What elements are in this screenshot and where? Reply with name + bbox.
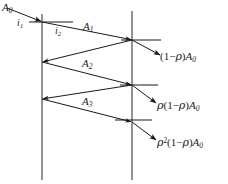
label-internal-ray-1: A1	[83, 21, 93, 32]
label-incident-amplitude: A0	[2, 2, 12, 13]
label-transmitted-amplitude-2: ρ(1−ρ)A0	[157, 100, 199, 111]
label-angle-incidence: i1	[17, 18, 23, 28]
label-transmitted-amplitude-1: (1−ρ)A0	[160, 51, 196, 62]
ray-diagram-figure: A0 i1 i2 A1 A2 A3 (1−ρ)A0 ρ(1−ρ)A0 ρ2(1−…	[0, 0, 228, 184]
transmitted-ray-1	[132, 40, 160, 55]
label-angle-refraction: i2	[55, 26, 61, 36]
label-transmitted-amplitude-3: ρ2(1−ρ)A0	[157, 137, 203, 148]
label-internal-ray-3: A3	[82, 96, 92, 107]
transmitted-ray-3	[132, 122, 156, 140]
ray-diagram-canvas	[0, 0, 228, 184]
label-internal-ray-2: A2	[82, 58, 92, 69]
transmitted-ray-2	[132, 85, 156, 103]
